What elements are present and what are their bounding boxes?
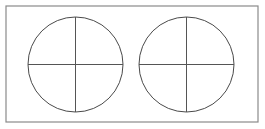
left-circle-group — [28, 17, 123, 112]
diagram-svg — [0, 0, 265, 129]
right-circle-group — [139, 17, 234, 112]
diagram-canvas — [0, 0, 265, 129]
